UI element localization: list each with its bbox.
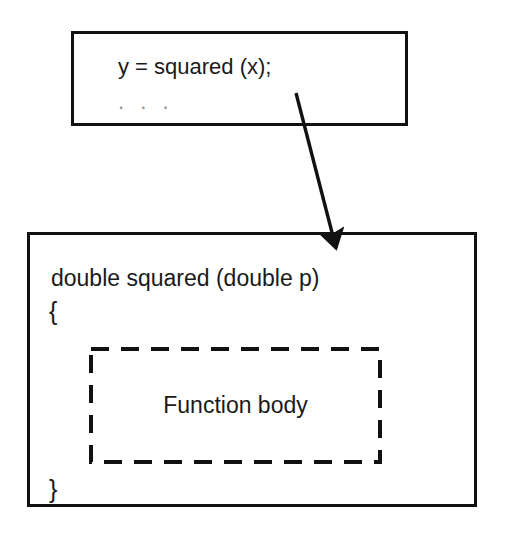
closing-brace: }	[49, 475, 57, 503]
caller-code-box: y = squared (x); . . .	[71, 31, 408, 126]
function-body-label: Function body	[89, 347, 382, 464]
caller-call-statement: y = squared (x);	[118, 54, 271, 80]
opening-brace: {	[49, 297, 57, 325]
function-signature: double squared (double p)	[51, 265, 320, 292]
function-definition-box: double squared (double p) { Function bod…	[27, 232, 477, 507]
caller-ellipsis: . . .	[118, 89, 174, 115]
diagram-canvas: y = squared (x); . . . double squared (d…	[0, 0, 521, 540]
function-body-box: Function body	[89, 347, 382, 464]
